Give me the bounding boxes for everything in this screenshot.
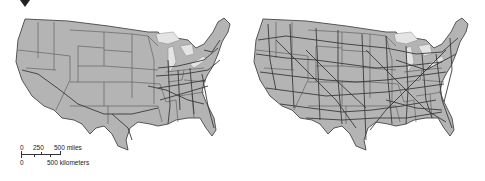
scale-bar: 0 250 500 miles 0 500 kilometers <box>18 142 118 172</box>
scale-tick <box>60 151 61 155</box>
scale-miles-label-0: 0 <box>20 144 24 151</box>
us-outline <box>254 18 468 150</box>
triangle-marker-icon <box>20 0 30 7</box>
scale-miles-label-250: 250 <box>33 144 44 151</box>
us-outline <box>16 18 230 150</box>
scale-tick <box>34 154 35 157</box>
scale-tick <box>50 154 51 157</box>
scale-tick <box>41 152 42 155</box>
scale-miles-label-500: 500 miles <box>54 144 82 151</box>
scale-tick <box>21 151 22 158</box>
scale-km-label-500: 500 kilometers <box>47 159 89 166</box>
scale-km-label-0: 0 <box>20 159 24 166</box>
figure: 0 250 500 miles 0 500 kilometers <box>0 0 485 181</box>
map-dense-network <box>246 10 480 162</box>
map-sparse-network <box>8 10 238 160</box>
